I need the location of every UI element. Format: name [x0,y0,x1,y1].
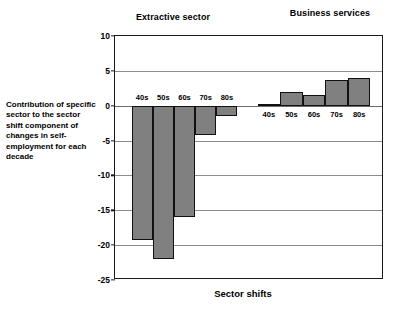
bar-label-80s: 80s [221,93,234,102]
y-tick-mark [111,279,115,280]
bar-business-services-80s [348,78,371,106]
y-tick-mark [111,210,115,211]
y-tick-label: -25 [98,275,110,285]
bar-label-60s: 60s [178,93,191,102]
y-tick-label: -15 [98,205,110,215]
bar-extractive-sector-80s [216,106,237,116]
y-axis-caption: Contribution of specific sector to the s… [6,100,98,162]
y-tick-mark [111,70,115,71]
y-tick-mark [111,140,115,141]
x-axis-title: Sector shifts [168,288,318,299]
y-tick-mark [111,105,115,106]
bar-extractive-sector-70s [195,106,216,135]
y-tick-label: 10 [101,31,110,41]
bar-business-services-50s [280,92,303,106]
gridline-5 [115,71,382,72]
y-tick-label: -10 [98,170,110,180]
bar-extractive-sector-50s [153,106,174,259]
bar-label-50s: 50s [157,93,170,102]
y-tick-label: 5 [105,66,110,76]
bar-label-40s: 40s [263,110,276,119]
bar-label-80s: 80s [353,110,366,119]
bar-label-60s: 60s [308,110,321,119]
bar-business-services-70s [325,80,348,106]
bar-label-40s: 40s [136,93,149,102]
bar-label-70s: 70s [330,110,343,119]
bar-label-70s: 70s [199,93,212,102]
y-tick-label: 0 [105,101,110,111]
y-tick-mark [111,175,115,176]
y-tick-mark [111,35,115,36]
bar-label-50s: 50s [285,110,298,119]
y-tick-label: -20 [98,240,110,250]
chart-figure: Extractive sector Business services Cont… [0,0,403,312]
plot-area: 1050-5-10-15-20-25 40s50s60s70s80s40s50s… [114,35,383,279]
group-title-business: Business services [265,8,395,18]
y-tick-label: -5 [102,136,110,146]
y-tick-mark [111,244,115,245]
group-title-extractive: Extractive sector [108,12,238,22]
bar-extractive-sector-40s [132,106,153,241]
bar-business-services-40s [258,104,281,106]
bar-business-services-60s [303,95,326,106]
bar-extractive-sector-60s [174,106,195,218]
